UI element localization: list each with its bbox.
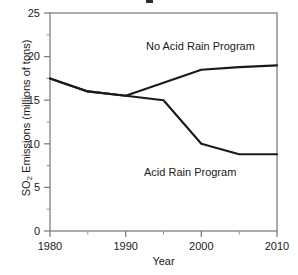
series-annotation-acid-rain-program: Acid Rain Program xyxy=(144,167,236,178)
x-tick-label-1980: 1980 xyxy=(30,241,70,252)
y-axis-label-subscript: 2 xyxy=(25,176,34,180)
x-tick-label-2000: 2000 xyxy=(181,241,221,252)
x-tick-label-2010: 2010 xyxy=(257,241,297,252)
y-tick-label-25: 25 xyxy=(14,8,40,19)
y-tick-label-0: 0 xyxy=(14,226,40,237)
x-tick-label-1990: 1990 xyxy=(106,241,146,252)
y-axis-label-base: SO xyxy=(20,180,32,196)
y-axis-label-rest: Emissions (millions of tons) xyxy=(20,40,32,176)
series-line-acid-rain-program xyxy=(50,78,277,154)
chart-figure: 0 5 10 15 20 25 1980 1990 2000 2010 Year… xyxy=(0,0,298,275)
series-annotation-no-acid-rain-program: No Acid Rain Program xyxy=(146,41,255,52)
x-axis-label: Year xyxy=(50,256,277,267)
series-line-no-acid-rain-program xyxy=(50,65,277,95)
y-axis-label: SO2 Emissions (millions of tons) xyxy=(20,28,36,208)
